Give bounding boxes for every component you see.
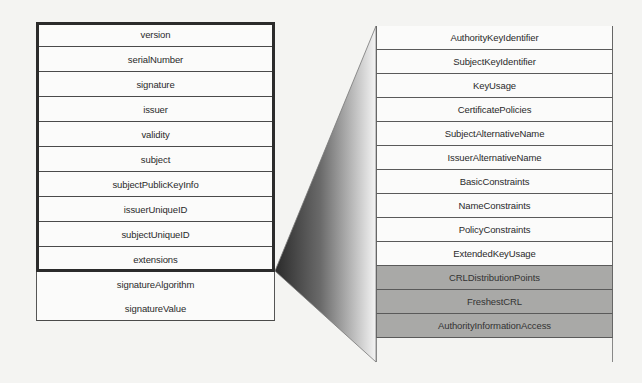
extension-row-certificate-policies: CertificatePolicies	[376, 98, 613, 122]
field-row-extensions: extensions	[36, 247, 275, 272]
extension-row-policy-constraints: PolicyConstraints	[376, 218, 613, 242]
field-row-signature-value: signatureValue	[36, 296, 275, 321]
extension-row-subject-alternative-name: SubjectAlternativeName	[376, 122, 613, 146]
extensions-table-continuation-right	[612, 338, 613, 362]
field-row-serial-number: serialNumber	[36, 47, 275, 72]
field-row-issuer: issuer	[36, 97, 275, 122]
certificate-fields-table: version serialNumber signature issuer va…	[36, 22, 275, 321]
extension-row-authority-information-access: AuthorityInformationAccess	[376, 314, 613, 338]
field-row-subject-unique-id: subjectUniqueID	[36, 222, 275, 247]
field-row-subject-public-key-info: subjectPublicKeyInfo	[36, 172, 275, 197]
field-row-signature: signature	[36, 72, 275, 97]
field-row-subject: subject	[36, 147, 275, 172]
extension-row-subject-key-identifier: SubjectKeyIdentifier	[376, 50, 613, 74]
field-row-version: version	[36, 22, 275, 47]
field-row-issuer-unique-id: issuerUniqueID	[36, 197, 275, 222]
extension-row-freshest-crl: FreshestCRL	[376, 290, 613, 314]
extension-row-extended-key-usage: ExtendedKeyUsage	[376, 242, 613, 266]
extension-row-key-usage: KeyUsage	[376, 74, 613, 98]
extension-row-crl-distribution-points: CRLDistributionPoints	[376, 266, 613, 290]
extensions-table: AuthorityKeyIdentifier SubjectKeyIdentif…	[376, 26, 613, 362]
extension-row-name-constraints: NameConstraints	[376, 194, 613, 218]
extension-row-issuer-alternative-name: IssuerAlternativeName	[376, 146, 613, 170]
extensions-table-continuation-left	[376, 338, 377, 362]
field-row-validity: validity	[36, 122, 275, 147]
field-row-signature-algorithm: signatureAlgorithm	[36, 272, 275, 297]
extension-row-basic-constraints: BasicConstraints	[376, 170, 613, 194]
extension-row-authority-key-identifier: AuthorityKeyIdentifier	[376, 26, 613, 50]
certificate-structure-diagram: version serialNumber signature issuer va…	[0, 0, 642, 383]
